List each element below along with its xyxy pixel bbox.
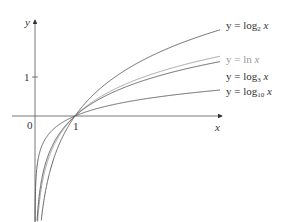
legend-log10: y = log10 x [226, 86, 272, 99]
curve-1 [38, 56, 220, 221]
plot-area [0, 0, 282, 222]
curve-3 [35, 90, 220, 222]
x-tick-label-1: 1 [73, 121, 79, 132]
legend-log2: y = log2 x [226, 20, 268, 33]
curve-2 [37, 62, 220, 221]
y-tick-label-1: 1 [24, 72, 30, 83]
y-axis-label: y [25, 17, 30, 28]
curve-0 [41, 30, 220, 221]
origin-label: 0 [27, 120, 33, 131]
legend-ln: y = ln x [226, 54, 259, 65]
log-functions-chart: y x 0 1 1 y = log2 x y = ln x y = log3 x… [0, 0, 282, 222]
legend-log3: y = log3 x [226, 71, 268, 84]
x-axis-label: x [215, 122, 220, 133]
